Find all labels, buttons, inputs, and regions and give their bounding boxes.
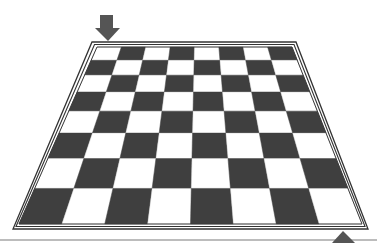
dark-square	[252, 92, 287, 111]
light-square	[148, 188, 192, 224]
up-arrow-icon	[332, 231, 355, 243]
dark-square	[191, 188, 234, 224]
light-square	[135, 75, 166, 92]
light-square	[193, 75, 222, 92]
dark-square	[221, 75, 251, 92]
dark-square	[228, 159, 270, 189]
light-square	[167, 60, 195, 75]
dark-square	[139, 60, 168, 75]
down-arrow-head	[95, 28, 120, 41]
light-square	[113, 159, 156, 189]
dark-square	[131, 92, 165, 111]
light-square	[100, 92, 136, 111]
light-square	[156, 133, 193, 158]
down-arrow-icon	[95, 15, 120, 41]
dark-square	[152, 159, 192, 189]
dark-square	[246, 60, 276, 75]
light-square	[112, 60, 143, 75]
dark-square	[219, 47, 246, 60]
light-square	[193, 111, 226, 133]
dark-square	[192, 133, 228, 158]
light-square	[143, 47, 170, 60]
light-square	[162, 92, 194, 111]
dark-square	[117, 47, 146, 60]
board-squares	[19, 47, 362, 224]
dark-square	[120, 133, 159, 158]
light-square	[220, 60, 249, 75]
light-square	[194, 47, 220, 60]
down-arrow-shaft	[100, 15, 113, 29]
dark-square	[159, 111, 193, 133]
light-square	[226, 133, 264, 158]
dark-square	[164, 75, 193, 92]
chessboard-diagram	[0, 0, 377, 243]
light-square	[243, 47, 271, 60]
dark-square	[168, 47, 194, 60]
dark-square	[106, 75, 139, 92]
dark-square	[224, 111, 259, 133]
dark-square	[193, 92, 224, 111]
light-square	[249, 75, 281, 92]
light-square	[126, 111, 162, 133]
light-square	[230, 188, 276, 224]
dark-square	[194, 60, 221, 75]
dark-square	[105, 188, 152, 224]
light-square	[191, 159, 230, 189]
light-square	[223, 92, 256, 111]
